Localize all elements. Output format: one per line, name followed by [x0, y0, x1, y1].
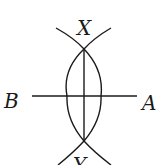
label-a: A	[140, 91, 156, 115]
label-b: B	[3, 89, 19, 113]
construction-diagram: X Y B A	[0, 0, 160, 165]
label-x: X	[75, 16, 92, 40]
label-y: Y	[73, 153, 88, 165]
